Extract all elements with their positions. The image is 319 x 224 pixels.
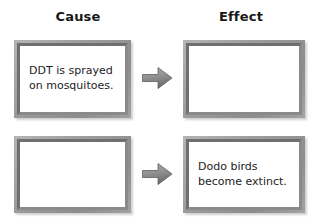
- cause-effect-worksheet: Cause Effect DDT is sprayed on mosquitoe…: [0, 0, 319, 224]
- right-arrow-icon: [140, 64, 174, 92]
- cause-box-row-2-paper: [20, 142, 125, 207]
- effect-box-row-1[interactable]: [183, 40, 305, 118]
- cause-box-row-1[interactable]: DDT is sprayed on mosquitoes.: [14, 40, 131, 118]
- cause-box-row-1-paper: DDT is sprayed on mosquitoes.: [20, 46, 125, 112]
- cause-box-row-1-text: DDT is sprayed on mosquitoes.: [29, 64, 113, 93]
- effect-box-row-2-paper: Dodo birds become extinct.: [189, 142, 299, 207]
- effect-box-row-1-bevel: [186, 43, 302, 115]
- effect-box-row-2-bevel: Dodo birds become extinct.: [186, 139, 302, 210]
- cause-box-row-2[interactable]: [14, 136, 131, 213]
- effect-box-row-2-text: Dodo birds become extinct.: [198, 160, 287, 189]
- effect-box-row-2[interactable]: Dodo birds become extinct.: [183, 136, 305, 213]
- effect-box-row-1-paper: [189, 46, 299, 112]
- right-arrow-icon: [140, 160, 174, 188]
- column-heading-cause: Cause: [0, 9, 156, 24]
- cause-box-row-1-bevel: DDT is sprayed on mosquitoes.: [17, 43, 128, 115]
- column-heading-effect: Effect: [163, 9, 319, 24]
- cause-box-row-2-bevel: [17, 139, 128, 210]
